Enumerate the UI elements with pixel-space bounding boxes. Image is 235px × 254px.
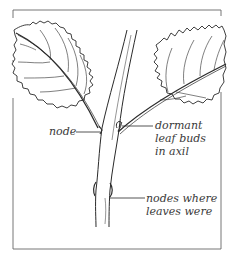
label-dormant-buds: dormant leaf buds in axil [155,119,206,158]
stem [94,30,137,227]
leader-lines [76,126,153,198]
label-node: node [49,125,76,138]
label-node-text: node [49,125,76,138]
stem-node-diagram: node dormant leaf buds in axil nodes whe… [0,0,235,254]
label-old-nodes: nodes where leaves were [146,192,217,218]
label-dormant-line3: in axil [155,145,206,158]
label-old-nodes-line2: leaves were [146,205,217,218]
label-dormant-line1: dormant [155,119,206,132]
label-old-nodes-line1: nodes where [146,192,217,205]
label-dormant-line2: leaf buds [155,132,206,145]
left-leaf [12,21,100,128]
